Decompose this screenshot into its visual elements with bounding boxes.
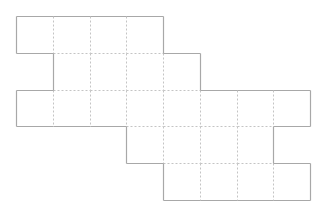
grid-cell [164, 54, 201, 91]
grid-cell [91, 91, 127, 127]
grid-cell [91, 54, 127, 91]
grid-cell [201, 164, 238, 201]
grid-cell [274, 164, 311, 201]
grid-cell [164, 91, 201, 127]
grid-cell [164, 127, 201, 164]
grid-cell [17, 91, 54, 127]
grid-cell [238, 164, 274, 201]
grid-cell [91, 17, 127, 54]
grid-cell [201, 91, 238, 127]
grid-cell [127, 91, 164, 127]
grid-cell [54, 54, 91, 91]
grid-cell [127, 17, 164, 54]
grid-cell [238, 127, 274, 164]
grid-cell [127, 54, 164, 91]
grid-cell [17, 17, 54, 54]
grid-cell [54, 91, 91, 127]
grid-cell [274, 91, 311, 127]
grid-cell [54, 17, 91, 54]
grid-diagram [0, 0, 325, 219]
grid-cell [164, 164, 201, 201]
grid-cell [201, 127, 238, 164]
grid-cell [127, 127, 164, 164]
grid-cell [238, 91, 274, 127]
